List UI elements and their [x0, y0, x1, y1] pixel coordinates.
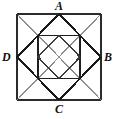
- vertex-label-d: D: [2, 51, 11, 63]
- vertex-label-b: B: [104, 51, 112, 63]
- geometry-figure: A B C D: [0, 0, 117, 119]
- vertex-label-c: C: [55, 103, 63, 115]
- outer-square-diagonals: [17, 14, 101, 100]
- vertex-label-a: A: [55, 0, 63, 12]
